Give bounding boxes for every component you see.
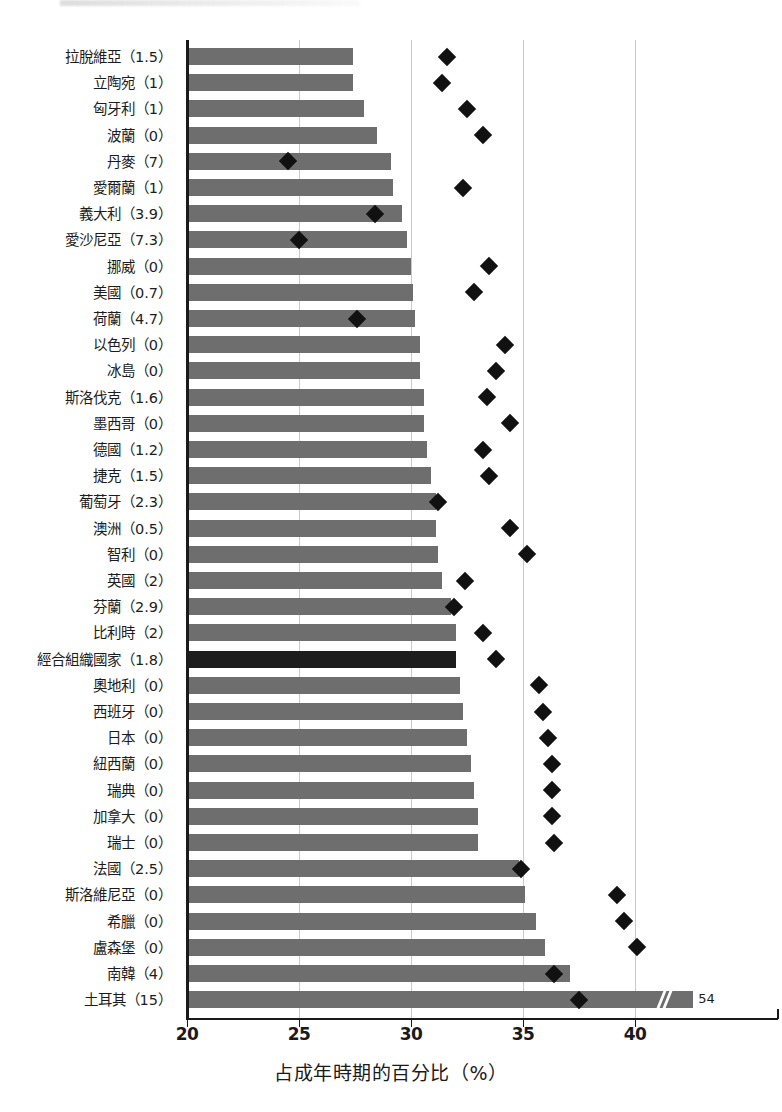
bar [189,886,525,903]
category-label: 經合組織國家（1.8） [0,648,172,669]
diamond-marker [473,440,491,458]
diamond-marker [478,388,496,406]
bar [189,336,420,353]
chart-row: 南韓（4） [0,965,782,982]
category-label: 盧森堡（0） [0,936,172,957]
bar [189,310,415,327]
category-label: 荷蘭（4.7） [0,307,172,328]
diamond-marker [608,886,626,904]
category-label: 匈牙利（1） [0,97,172,118]
category-label: 南韓（4） [0,962,172,983]
diamond-marker [500,519,518,537]
category-label: 土耳其（15） [0,988,172,1009]
category-label: 墨西哥（0） [0,412,172,433]
bar [189,729,467,746]
bar [189,520,436,537]
category-label: 瑞士（0） [0,831,172,852]
category-label: 比利時（2） [0,621,172,642]
chart-row: 拉脫維亞（1.5） [0,48,782,65]
chart-row: 愛爾蘭（1） [0,179,782,196]
diamond-marker [438,47,456,65]
bar [189,651,456,668]
chart-row: 比利時（2） [0,624,782,641]
category-label: 波蘭（0） [0,124,172,145]
diamond-marker [453,178,471,196]
chart-row: 捷克（1.5） [0,467,782,484]
bar [189,179,393,196]
bar [189,546,438,563]
x-tick-label: 25 [288,1024,311,1044]
category-label: 加拿大（0） [0,805,172,826]
category-label: 奧地利（0） [0,674,172,695]
diamond-marker [473,126,491,144]
category-label: 芬蘭（2.9） [0,595,172,616]
diamond-marker [545,833,563,851]
x-axis-title: 占成年時期的百分比（%） [0,1058,782,1085]
bar [189,467,431,484]
diamond-marker [458,100,476,118]
bar [189,362,420,379]
diamond-marker [615,912,633,930]
chart-row: 希臘（0） [0,913,782,930]
category-label: 愛爾蘭（1） [0,176,172,197]
chart-row: 瑞士（0） [0,834,782,851]
diamond-marker [628,938,646,956]
diamond-marker [465,283,483,301]
chart-row: 冰島（0） [0,362,782,379]
bar [189,755,471,772]
chart-row: 斯洛維尼亞（0） [0,886,782,903]
x-tick-label: 30 [400,1024,423,1044]
chart-row: 德國（1.2） [0,441,782,458]
bar [189,782,474,799]
chart-row: 土耳其（15）54 [0,991,782,1008]
category-label: 斯洛維尼亞（0） [0,883,172,904]
bar [189,100,364,117]
bar-value-label: 54 [698,991,715,1006]
chart-figure: 2025303540 拉脫維亞（1.5）立陶宛（1）匈牙利（1）波蘭（0）丹麥（… [0,0,782,1112]
category-label: 以色列（0） [0,333,172,354]
chart-row: 西班牙（0） [0,703,782,720]
chart-row: 經合組織國家（1.8） [0,651,782,668]
bar [189,624,456,641]
diamond-marker [543,807,561,825]
category-label: 法國（2.5） [0,857,172,878]
category-label: 澳洲（0.5） [0,517,172,538]
category-label: 英國（2） [0,569,172,590]
category-label: 愛沙尼亞（7.3） [0,228,172,249]
category-label: 日本（0） [0,726,172,747]
chart-row: 挪威（0） [0,258,782,275]
bar [189,572,442,589]
category-label: 捷克（1.5） [0,464,172,485]
chart-row: 日本（0） [0,729,782,746]
diamond-marker [496,335,514,353]
bar [189,284,413,301]
bar [189,834,478,851]
x-axis-line [186,1018,778,1020]
category-label: 德國（1.2） [0,438,172,459]
chart-row: 美國（0.7） [0,284,782,301]
bar [189,808,478,825]
chart-row: 波蘭（0） [0,127,782,144]
bar [189,991,693,1008]
chart-row: 立陶宛（1） [0,74,782,91]
diamond-marker [480,257,498,275]
diamond-marker [487,650,505,668]
category-label: 義大利（3.9） [0,202,172,223]
chart-row: 芬蘭（2.9） [0,598,782,615]
chart-row: 匈牙利（1） [0,100,782,117]
chart-row: 盧森堡（0） [0,939,782,956]
chart-row: 荷蘭（4.7） [0,310,782,327]
diamond-marker [473,624,491,642]
x-axis-end-cap [777,1009,779,1019]
category-label: 紐西蘭（0） [0,752,172,773]
diamond-marker [480,466,498,484]
bar [189,258,411,275]
category-label: 挪威（0） [0,255,172,276]
category-label: 瑞典（0） [0,779,172,800]
diamond-marker [518,545,536,563]
category-label: 西班牙（0） [0,700,172,721]
chart-row: 紐西蘭（0） [0,755,782,772]
bar [189,127,377,144]
chart-row: 法國（2.5） [0,860,782,877]
bar [189,48,353,65]
